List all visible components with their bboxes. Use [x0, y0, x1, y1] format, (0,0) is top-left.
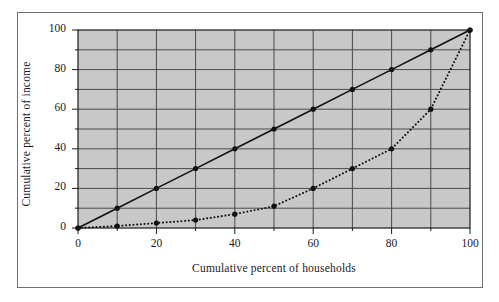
equality-line-marker	[428, 47, 433, 52]
equality-line-marker	[115, 206, 120, 211]
y-tick-label: 40	[36, 141, 66, 153]
equality-line-marker	[311, 107, 316, 112]
y-tick-label: 20	[36, 180, 66, 192]
x-tick-label: 20	[141, 237, 171, 249]
lorenz-curve-marker	[75, 225, 80, 230]
lorenz-curve-marker	[311, 186, 316, 191]
lorenz-curve-marker	[428, 107, 433, 112]
lorenz-curve-marker	[193, 217, 198, 222]
equality-line-marker	[271, 126, 276, 131]
y-axis-title: Cumulative percent of income	[20, 44, 32, 224]
x-tick-label: 40	[220, 237, 250, 249]
lorenz-curve-marker	[271, 204, 276, 209]
y-tick-label: 0	[36, 220, 66, 232]
equality-line-marker	[193, 166, 198, 171]
lorenz-curve-marker	[467, 27, 472, 32]
x-tick-label: 0	[63, 237, 93, 249]
equality-line-marker	[232, 146, 237, 151]
lorenz-curve-marker	[154, 220, 159, 225]
x-tick-label: 60	[298, 237, 328, 249]
equality-line-marker	[350, 87, 355, 92]
equality-line-marker	[389, 67, 394, 72]
y-tick-label: 100	[36, 22, 66, 34]
x-tick-label: 80	[377, 237, 407, 249]
lorenz-curve-marker	[232, 212, 237, 217]
y-tick-label: 80	[36, 62, 66, 74]
y-tick-label: 60	[36, 101, 66, 113]
lorenz-curve-marker	[389, 146, 394, 151]
lorenz-curve-marker	[115, 223, 120, 228]
x-tick-label: 100	[455, 237, 485, 249]
lorenz-curve-chart	[0, 0, 499, 302]
x-axis-title: Cumulative percent of households	[78, 262, 470, 274]
equality-line-marker	[154, 186, 159, 191]
lorenz-curve-marker	[350, 166, 355, 171]
